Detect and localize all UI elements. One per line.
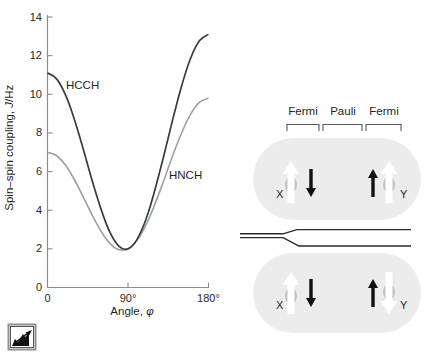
y-axis-title-units: /Hz: [3, 85, 15, 102]
y-tick-label: 0: [20, 282, 42, 293]
upper-molecule-blob: [253, 138, 421, 220]
y-tick-label: 10: [20, 89, 42, 100]
x-tick-label: 90°: [110, 293, 146, 304]
y-tick-label: 2: [20, 243, 42, 254]
fermi-right-bracket: [366, 125, 401, 132]
y-axis-title: Spin–spin coupling, J/Hz: [4, 38, 16, 258]
fermi-right-label: Fermi: [364, 106, 404, 118]
x-axis-symbol-phi: φ: [146, 305, 154, 317]
y-tick-label: 6: [20, 166, 42, 177]
upper-y-label: Y: [400, 189, 407, 200]
living-graph-icon[interactable]: [7, 323, 39, 353]
pauli-bracket: [323, 125, 362, 132]
curve-hcch: [48, 34, 209, 249]
x-tick-label: 0: [30, 293, 66, 304]
y-tick-label: 12: [20, 50, 42, 61]
pauli-label: Pauli: [323, 106, 363, 118]
series-label-hnch: HNCH: [169, 170, 202, 182]
x-axis-title-text: Angle,: [110, 305, 146, 317]
fermi-left-bracket: [287, 125, 319, 132]
y-tick-label: 14: [20, 12, 42, 23]
upper-x-label: X: [276, 189, 283, 200]
y-axis-title-text: Spin–spin coupling,: [3, 108, 15, 211]
figure: Spin–spin coupling, J/Hz Angle, φ HCCH H…: [0, 0, 433, 354]
split-lower-level-line: [283, 238, 411, 246]
lower-x-label: X: [276, 300, 283, 311]
y-tick-label: 8: [20, 127, 42, 138]
energy-level-diagram: [240, 230, 411, 246]
coupling-mechanism-diagram: [233, 85, 433, 354]
y-tick-label: 4: [20, 205, 42, 216]
split-upper-level-line: [283, 230, 411, 234]
series-label-hcch: HCCH: [66, 80, 99, 92]
fermi-left-label: Fermi: [283, 106, 323, 118]
y-axis-symbol-J: J: [3, 102, 15, 108]
x-axis-title: Angle, φ: [92, 306, 172, 318]
x-tick-label: 180°: [191, 293, 227, 304]
lower-y-label: Y: [400, 300, 407, 311]
lower-molecule-blob: [253, 253, 421, 333]
